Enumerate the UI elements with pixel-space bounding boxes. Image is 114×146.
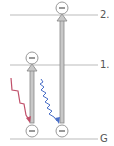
electron-level-2 — [56, 2, 68, 14]
transition-arrow-g-to-2 — [57, 14, 67, 123]
level-ground-label: G — [100, 134, 108, 144]
energy-level-diagram — [0, 0, 114, 146]
red-photon-arrow — [11, 78, 31, 123]
level-2-label: 2. — [100, 10, 110, 20]
electron-level-1 — [26, 52, 38, 64]
blue-photon-arrow — [40, 79, 60, 124]
level-1-label: 1. — [100, 60, 110, 70]
electron-ground-left — [26, 125, 38, 137]
electron-ground-right — [56, 125, 68, 137]
transition-arrow-g-to-1 — [27, 64, 37, 123]
